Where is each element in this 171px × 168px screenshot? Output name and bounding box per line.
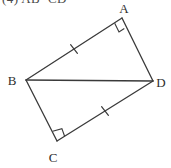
tick-CD-icon xyxy=(102,107,109,116)
quadrilateral-diagram: A B C D xyxy=(0,0,171,168)
vertex-label-C: C xyxy=(49,150,58,165)
right-angle-A-icon xyxy=(115,23,125,32)
segment-AD xyxy=(122,18,153,81)
diagonal-BD xyxy=(26,80,153,81)
vertex-label-A: A xyxy=(119,1,129,16)
segment-BC xyxy=(26,80,57,141)
vertex-label-D: D xyxy=(156,75,165,90)
tick-AB-icon xyxy=(71,45,78,54)
vertex-label-B: B xyxy=(8,73,17,88)
geometry-figure: (4) AB=CD A B C D xyxy=(0,0,171,168)
